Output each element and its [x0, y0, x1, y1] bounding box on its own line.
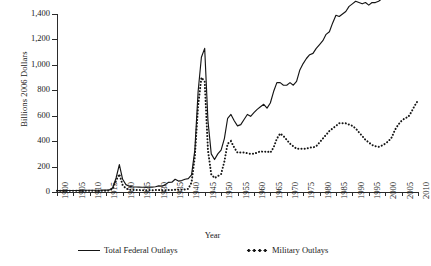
- y-axis-tick-label: 1,400: [2, 8, 50, 18]
- x-axis-tick: [369, 192, 370, 196]
- x-axis-tick: [402, 192, 403, 196]
- y-axis-tick-label: 1,200: [2, 33, 50, 43]
- x-axis-tick: [139, 192, 140, 196]
- solid-line-swatch-icon: [78, 250, 100, 251]
- legend-item-total-federal-outlays: Total Federal Outlays: [78, 245, 178, 255]
- x-axis-tick: [90, 192, 91, 196]
- x-axis-tick: [155, 192, 156, 196]
- x-axis-tick: [57, 192, 58, 196]
- x-axis-tick: [172, 192, 173, 196]
- dotted-line-swatch-icon: [246, 249, 268, 252]
- x-axis-tick: [188, 192, 189, 196]
- x-axis-tick: [287, 192, 288, 196]
- y-axis-tick-labels: 1,4001,2001,0008006004002000: [0, 0, 50, 200]
- x-axis-tick: [106, 192, 107, 196]
- x-axis-tick: [238, 192, 239, 196]
- series-military-outlays: [57, 78, 418, 191]
- legend-label-military: Military Outlays: [272, 245, 328, 255]
- series-total-federal-outlays: [57, 0, 418, 191]
- x-axis-tick: [336, 192, 337, 196]
- plot-area: [57, 14, 418, 192]
- x-axis-tick: [221, 192, 222, 196]
- y-axis-tick-label: 600: [2, 110, 50, 120]
- y-axis-tick-label: 800: [2, 84, 50, 94]
- legend-item-military-outlays: Military Outlays: [246, 245, 328, 255]
- x-axis-tick: [205, 192, 206, 196]
- y-axis-tick-label: 1,000: [2, 59, 50, 69]
- x-axis-tick: [385, 192, 386, 196]
- y-axis-tick-label: 0: [2, 186, 50, 196]
- x-axis-tick: [320, 192, 321, 196]
- chart-legend: Total Federal Outlays Military Outlays: [0, 245, 425, 261]
- x-axis-tick: [352, 192, 353, 196]
- y-axis-tick-label: 400: [2, 135, 50, 145]
- x-axis-tick: [123, 192, 124, 196]
- legend-label-total: Total Federal Outlays: [104, 245, 178, 255]
- x-axis-tick: [270, 192, 271, 196]
- x-axis-tick: [418, 192, 419, 196]
- x-axis-title: Year: [0, 230, 425, 240]
- y-axis-tick-label: 200: [2, 161, 50, 171]
- series-canvas: [57, 14, 418, 192]
- x-axis-tick-label: 2010: [421, 182, 431, 199]
- x-axis-tick: [73, 192, 74, 196]
- x-axis-tick: [303, 192, 304, 196]
- x-axis-tick: [254, 192, 255, 196]
